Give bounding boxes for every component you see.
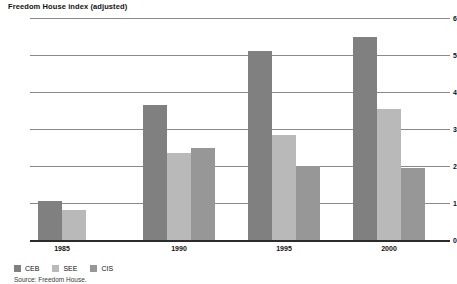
x-axis-line	[30, 240, 450, 242]
chart-container: Freedom House index (adjusted) CEBSEECIS…	[0, 0, 457, 284]
y-tick-label: 0	[435, 237, 457, 244]
bar-see-1995	[272, 135, 296, 240]
legend-label: SEE	[63, 265, 77, 272]
x-tick-label: 2000	[381, 245, 397, 252]
y-tick-label: 4	[435, 89, 457, 96]
legend-label: CEB	[25, 265, 39, 272]
y-tick-label: 2	[435, 163, 457, 170]
bar-cis-1995	[296, 166, 320, 240]
legend-label: CIS	[101, 265, 113, 272]
y-tick-label: 5	[435, 52, 457, 59]
bar-see-1990	[167, 153, 191, 240]
legend-swatch-icon	[52, 265, 59, 272]
y-tick-label: 1	[435, 200, 457, 207]
legend-swatch-icon	[14, 265, 21, 272]
bar-cis-1990	[191, 148, 215, 241]
gridline	[30, 18, 450, 19]
chart-legend: CEBSEECIS	[14, 265, 113, 272]
legend-item-see: SEE	[52, 265, 77, 272]
bar-ceb-1995	[248, 51, 272, 240]
y-tick-label: 3	[435, 126, 457, 133]
legend-item-ceb: CEB	[14, 265, 39, 272]
chart-title: Freedom House index (adjusted)	[8, 2, 127, 11]
x-tick-label: 1995	[276, 245, 292, 252]
bar-cis-2000	[401, 168, 425, 240]
legend-item-cis: CIS	[90, 265, 113, 272]
legend-swatch-icon	[90, 265, 97, 272]
y-axis	[0, 18, 26, 240]
x-tick-label: 1985	[54, 245, 70, 252]
x-tick-label: 1990	[171, 245, 187, 252]
bar-see-1985	[62, 210, 86, 240]
bar-ceb-1985	[38, 201, 62, 240]
plot-area	[30, 18, 450, 240]
bar-see-2000	[377, 109, 401, 240]
source-note: Source: Freedom House.	[14, 276, 87, 283]
bar-ceb-2000	[353, 37, 377, 241]
bar-ceb-1990	[143, 105, 167, 240]
y-tick-label: 6	[435, 15, 457, 22]
gridline	[30, 55, 450, 56]
gridline	[30, 92, 450, 93]
